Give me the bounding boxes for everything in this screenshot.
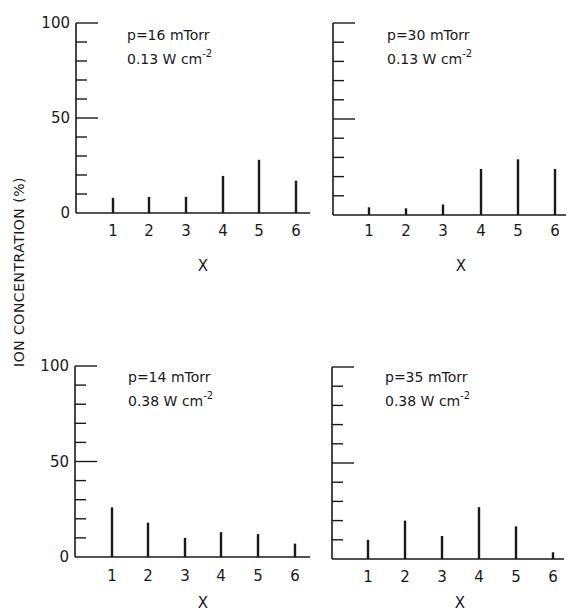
pressure-annotation: p=16 mTorr: [127, 27, 210, 43]
panels: 050100123456Xp=16 mTorr0.13 W cm-2123456…: [40, 14, 566, 612]
x-tick-label: 6: [290, 567, 300, 585]
x-axis-label: X: [455, 594, 465, 612]
panel-top-right: 123456Xp=30 mTorr0.13 W cm-2: [333, 23, 566, 275]
pressure-annotation: p=14 mTorr: [128, 369, 211, 385]
pressure-annotation: p=35 mTorr: [385, 369, 468, 385]
x-tick-label: 2: [400, 568, 410, 586]
panel-bottom-right: 123456Xp=35 mTorr0.38 W cm-2: [332, 367, 564, 612]
y-tick-label: 0: [60, 204, 70, 222]
power-density-annotation: 0.13 W cm-2: [387, 48, 472, 67]
panel-top-left: 050100123456Xp=16 mTorr0.13 W cm-2: [41, 14, 310, 275]
figure: ION CONCENTRATION (%) 050100123456Xp=16 …: [0, 0, 576, 616]
y-tick-label: 50: [51, 109, 70, 127]
x-tick-label: 3: [181, 222, 191, 240]
x-tick-label: 4: [218, 222, 228, 240]
power-density-annotation: 0.38 W cm-2: [385, 390, 470, 409]
power-density-annotation: 0.13 W cm-2: [127, 48, 212, 67]
x-tick-label: 6: [548, 568, 558, 586]
y-tick-label: 100: [41, 14, 70, 32]
y-tick-label: 100: [40, 357, 69, 375]
pressure-annotation: p=30 mTorr: [387, 27, 470, 43]
x-tick-label: 2: [143, 567, 153, 585]
y-tick-label: 0: [59, 548, 69, 566]
x-tick-label: 5: [511, 568, 521, 586]
power-density-annotation: 0.38 W cm-2: [128, 390, 213, 409]
x-tick-label: 1: [108, 222, 118, 240]
x-tick-label: 5: [254, 222, 264, 240]
x-axis-label: X: [456, 257, 466, 275]
x-axis-label: X: [198, 257, 208, 275]
x-tick-label: 5: [253, 567, 263, 585]
x-tick-label: 1: [364, 222, 374, 240]
x-tick-label: 2: [144, 222, 154, 240]
x-tick-label: 2: [401, 222, 411, 240]
x-tick-label: 1: [107, 567, 117, 585]
x-tick-label: 3: [437, 568, 447, 586]
x-tick-label: 3: [438, 222, 448, 240]
x-tick-label: 4: [216, 567, 226, 585]
x-tick-label: 6: [291, 222, 301, 240]
x-axis-label: X: [198, 594, 208, 612]
y-tick-label: 50: [50, 453, 69, 471]
x-tick-label: 3: [180, 567, 190, 585]
x-tick-label: 6: [550, 222, 560, 240]
x-tick-label: 1: [363, 568, 373, 586]
x-tick-label: 4: [474, 568, 484, 586]
chart-canvas: ION CONCENTRATION (%) 050100123456Xp=16 …: [0, 0, 576, 616]
panel-bottom-left: 050100123456Xp=14 mTorr0.38 W cm-2: [40, 357, 310, 612]
y-axis-label: ION CONCENTRATION (%): [11, 177, 27, 367]
x-tick-label: 4: [476, 222, 486, 240]
x-tick-label: 5: [513, 222, 523, 240]
